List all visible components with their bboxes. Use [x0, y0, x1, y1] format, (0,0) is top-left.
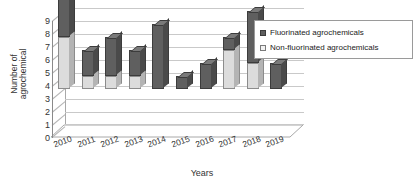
- bar-side-face: [234, 44, 240, 88]
- bar-segment-fluorinated-2015: [176, 76, 188, 89]
- legend-label-non-fluorinated: Non-fluorinated agrochemicals: [270, 43, 379, 52]
- y-axis-title-line-2: agrochemical: [19, 49, 28, 100]
- bar-2015: [176, 76, 188, 89]
- bar-segment-fluorinated-2012: [105, 37, 117, 76]
- y-tick-7: 7: [45, 43, 50, 52]
- bar-segment-fluorinated-2010: [58, 0, 70, 37]
- bar-segment-fluorinated-2011: [82, 50, 94, 76]
- x-tick-2019: 2019: [264, 134, 285, 150]
- bar-2010: [58, 0, 70, 89]
- bar-segment-fluorinated-2014: [152, 24, 164, 89]
- y-tick-4: 4: [45, 82, 50, 91]
- y-tick-9: 9: [45, 17, 50, 26]
- x-tick-2010: 2010: [52, 134, 73, 150]
- legend-swatch-icon-non-fluorinated: [260, 45, 266, 51]
- bar-2011: [82, 50, 94, 89]
- bar-segment-fluorinated-2013: [129, 50, 141, 76]
- bar-side-face: [69, 0, 75, 36]
- legend-swatch-icon-fluorinated: [260, 30, 266, 36]
- y-tick-5: 5: [45, 69, 50, 78]
- bar-side-face: [163, 18, 169, 88]
- x-tick-2012: 2012: [99, 134, 120, 150]
- x-tick-2017: 2017: [217, 134, 238, 150]
- bar-segment-fluorinated-2016: [200, 63, 212, 89]
- chart-legend: Fluorinated agrochemicals Non-fluorinate…: [254, 20, 413, 59]
- bar-segment-fluorinated-2017: [223, 37, 235, 50]
- bar-segment-fluorinated-2019: [270, 63, 282, 89]
- y-axis-title: Number of agrochemical: [4, 18, 34, 130]
- bar-2012: [105, 37, 117, 89]
- bar-2013: [129, 50, 141, 89]
- bar-chart: Number of agrochemical: [0, 0, 417, 187]
- y-tick-8: 8: [45, 30, 50, 39]
- bar-2014: [152, 24, 164, 89]
- bar-segment-non-fluorinated-2017: [223, 50, 235, 89]
- bar-side-face: [69, 31, 75, 88]
- y-tick-2: 2: [45, 108, 50, 117]
- x-tick-2013: 2013: [123, 134, 144, 150]
- legend-label-fluorinated: Fluorinated agrochemicals: [270, 28, 364, 37]
- bar-2016: [200, 63, 212, 89]
- bar-segment-non-fluorinated-2011: [82, 76, 94, 89]
- legend-item-non-fluorinated: Non-fluorinated agrochemicals: [260, 40, 407, 55]
- x-tick-2015: 2015: [170, 134, 191, 150]
- x-tick-2011: 2011: [76, 134, 97, 150]
- bar-segment-non-fluorinated-2013: [129, 76, 141, 89]
- legend-item-fluorinated: Fluorinated agrochemicals: [260, 25, 407, 40]
- x-tick-2014: 2014: [146, 134, 167, 150]
- x-axis-title: Years: [52, 168, 352, 178]
- bar-segment-non-fluorinated-2018: [247, 63, 259, 89]
- bar-segment-non-fluorinated-2010: [58, 37, 70, 89]
- bar-2019: [270, 63, 282, 89]
- y-tick-1: 1: [45, 121, 50, 130]
- y-tick-3: 3: [45, 95, 50, 104]
- y-axis-labels: 9 8 7 6 5 4 3 2 1 0: [36, 8, 50, 138]
- y-tick-6: 6: [45, 56, 50, 65]
- x-tick-2016: 2016: [194, 134, 215, 150]
- bar-segment-non-fluorinated-2012: [105, 76, 117, 89]
- bar-2017: [223, 37, 235, 89]
- x-tick-2018: 2018: [241, 134, 262, 150]
